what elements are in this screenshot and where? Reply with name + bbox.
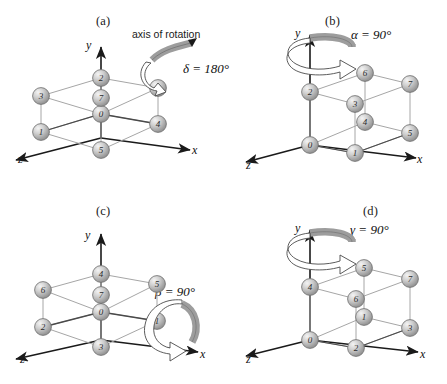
vertex-sphere: 5: [93, 142, 110, 159]
cube-vertices-c: 2 3 1 0 6 7 5 4: [35, 266, 166, 356]
panel-c: (c) β = 90° y x z: [0, 192, 223, 384]
vertex-label: 7: [408, 79, 413, 89]
vertex-sphere: 2: [35, 319, 52, 336]
vertex-sphere: 7: [93, 90, 110, 107]
vertex-sphere: 4: [302, 279, 319, 296]
vertex-sphere: 5: [356, 260, 373, 277]
vertex-label: 4: [99, 269, 104, 279]
vertex-sphere: 2: [93, 70, 110, 87]
vertex-label: 2: [99, 73, 104, 83]
vertex-sphere: 4: [93, 266, 110, 283]
vertex-label: 3: [352, 99, 358, 109]
vertex-label: 0: [99, 109, 104, 119]
rotation-arrow-a: [141, 38, 197, 96]
vertex-label: 0: [308, 140, 313, 150]
vertex-sphere: 3: [33, 88, 50, 105]
cube-scene-b: 0 1 5 4 2 3 7 6: [224, 0, 447, 192]
vertex-label: 5: [362, 263, 367, 273]
vertex-sphere: 1: [356, 309, 373, 326]
vertex-label: 4: [363, 117, 368, 127]
vertex-sphere: 5: [402, 125, 419, 142]
vertex-label: 7: [99, 290, 104, 300]
rotation-arrow-d: [287, 232, 356, 274]
vertex-label: 3: [98, 342, 104, 352]
vertex-sphere: 6: [35, 282, 52, 299]
vertex-label: 4: [156, 119, 161, 129]
vertex-sphere: 0: [93, 106, 110, 123]
vertex-sphere: 6: [348, 291, 365, 308]
vertex-sphere: 7: [93, 287, 110, 304]
vertex-sphere: 1: [33, 124, 50, 141]
cube-scene-d: 0 2 3 1 4 6 7 5: [224, 192, 447, 384]
cube-edges-b: [310, 73, 410, 153]
vertex-sphere: 0: [302, 137, 319, 154]
vertex-label: 6: [354, 294, 359, 304]
vertex-sphere: 4: [357, 114, 374, 131]
cube-scene-a: 1 5 4 0 3 7 6 2: [0, 0, 223, 192]
vertex-label: 1: [353, 148, 358, 158]
vertex-label: 4: [308, 282, 313, 292]
vertex-sphere: 0: [93, 304, 110, 321]
vertex-label: 7: [408, 274, 413, 284]
vertex-label: 6: [41, 285, 46, 295]
vertex-sphere: 3: [402, 320, 419, 337]
rotation-arrow-b: [287, 37, 356, 79]
panel-a: (a) axis of rotation δ = 180° y x z: [0, 0, 223, 192]
vertex-label: 2: [354, 343, 359, 353]
vertex-sphere: 1: [347, 145, 364, 162]
panel-b: (b) α = 90° y x z: [224, 0, 447, 192]
axes-b: [246, 35, 416, 162]
vertex-sphere: 3: [93, 339, 110, 356]
vertex-sphere: 7: [402, 76, 419, 93]
vertex-sphere: 6: [357, 65, 374, 82]
vertex-sphere: 2: [302, 84, 319, 101]
vertex-label: 0: [99, 307, 104, 317]
vertex-label: 0: [308, 335, 313, 345]
vertex-label: 3: [407, 323, 413, 333]
vertex-sphere: 4: [150, 116, 167, 133]
vertex-label: 5: [155, 279, 160, 289]
vertex-sphere: 0: [302, 332, 319, 349]
cube-edges-d: [310, 268, 410, 348]
vertex-label: 5: [99, 145, 104, 155]
rotation-arrow-c: [144, 300, 196, 361]
vertex-label: 6: [363, 68, 368, 78]
vertex-label: 1: [39, 127, 44, 137]
vertex-sphere: 3: [347, 96, 364, 113]
vertex-label: 7: [99, 93, 104, 103]
vertex-label: 3: [38, 91, 44, 101]
panel-d: (d) γ = 90° y x z: [224, 192, 447, 384]
vertex-label: 1: [362, 312, 367, 322]
vertex-label: 2: [308, 87, 313, 97]
vertex-label: 5: [408, 128, 413, 138]
vertex-label: 2: [41, 322, 46, 332]
vertex-sphere: 7: [402, 271, 419, 288]
vertex-sphere: 2: [348, 340, 365, 357]
figure-root: (a) axis of rotation δ = 180° y x z: [0, 0, 447, 384]
cube-scene-c: 2 3 1 0 6 7 5 4: [0, 192, 223, 384]
vertex-sphere: 5: [149, 276, 166, 293]
